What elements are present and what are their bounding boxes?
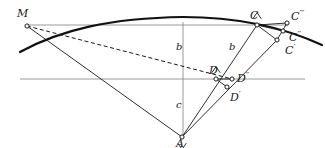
label-M: M: [17, 8, 28, 19]
line-A-to-Cp: [182, 40, 277, 137]
label-Dpp: D′′: [237, 71, 249, 84]
point-marker-Cpp: [281, 29, 285, 33]
label-D: D: [209, 65, 218, 76]
label-Dp-prime-marks: ′: [239, 89, 241, 98]
label-Dpp-prime-marks: ′′: [246, 70, 249, 79]
line-M-to-A: [27, 26, 182, 137]
point-marker-M: [25, 24, 29, 28]
point-marker-Dp: [225, 85, 229, 89]
label-b-diagonal: b: [229, 42, 235, 52]
point-marker-Dpp: [230, 77, 234, 81]
dashed-line-M-to-D: [27, 26, 232, 79]
diagram-canvas: [0, 0, 325, 148]
geometric-diagram: M A C C′′′ C′′ C′ D D′′ D′ b b c: [0, 0, 325, 148]
label-Dp: D′: [230, 90, 240, 103]
point-marker-Cp: [275, 38, 279, 42]
label-c-vertical: c: [176, 100, 182, 110]
point-marker-Cppp: [285, 21, 289, 25]
label-Cpp-prime-marks: ′′: [297, 29, 300, 38]
label-Cpp: C′′: [289, 30, 300, 43]
label-A: A: [176, 138, 184, 148]
label-C: C: [250, 10, 258, 21]
label-b-vertical: b: [176, 42, 182, 52]
label-Cp-prime-marks: ′: [293, 42, 295, 51]
point-marker-C: [255, 23, 259, 27]
point-marker-D: [214, 77, 218, 81]
label-Cppp-prime-marks: ′′′: [299, 8, 304, 17]
label-Cp: C′: [285, 43, 295, 56]
arc-curve: [20, 17, 322, 52]
label-Cppp: C′′′: [291, 9, 304, 22]
